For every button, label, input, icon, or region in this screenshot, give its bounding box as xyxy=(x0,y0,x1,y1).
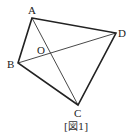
label-o: O xyxy=(37,44,45,56)
label-a: A xyxy=(28,4,36,16)
diagonal-ac xyxy=(32,18,78,105)
figure-caption: [図1] xyxy=(64,121,88,132)
diagonal-bd xyxy=(18,33,116,63)
label-b: B xyxy=(7,58,14,70)
quadrilateral-abcd xyxy=(18,18,116,105)
quadrilateral-diagram: A D B C O [図1] xyxy=(0,0,136,133)
label-d: D xyxy=(118,27,126,39)
label-c: C xyxy=(74,107,81,119)
